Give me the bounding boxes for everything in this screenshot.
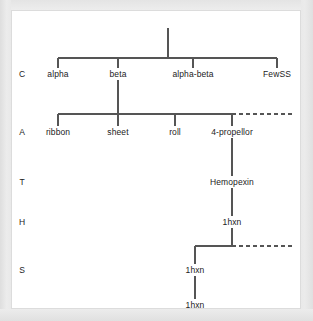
diagram-page: CATHSalphabetaalpha-betaFewSSribbonsheet…	[0, 0, 313, 321]
row-label-t: T	[19, 178, 24, 187]
node-roll[interactable]: roll	[169, 128, 181, 137]
node-ribbon[interactable]: ribbon	[46, 128, 70, 137]
node-fewss[interactable]: FewSS	[263, 70, 291, 79]
tree-edges	[0, 0, 313, 321]
row-label-s: S	[19, 266, 25, 275]
node-1hxn-h[interactable]: 1hxn	[223, 218, 242, 227]
node-4-propellor[interactable]: 4-propellor	[211, 128, 253, 137]
node-hemopexin[interactable]: Hemopexin	[210, 178, 254, 187]
row-label-h: H	[19, 218, 25, 227]
node-beta[interactable]: beta	[110, 70, 127, 79]
row-label-a: A	[19, 128, 25, 137]
node-1hxn-s1[interactable]: 1hxn	[186, 266, 205, 275]
node-1hxn-s2[interactable]: 1hxn	[186, 301, 205, 310]
node-alpha[interactable]: alpha	[47, 70, 68, 79]
node-sheet[interactable]: sheet	[107, 128, 128, 137]
row-label-c: C	[19, 70, 25, 79]
node-alpha-beta[interactable]: alpha-beta	[172, 70, 213, 79]
